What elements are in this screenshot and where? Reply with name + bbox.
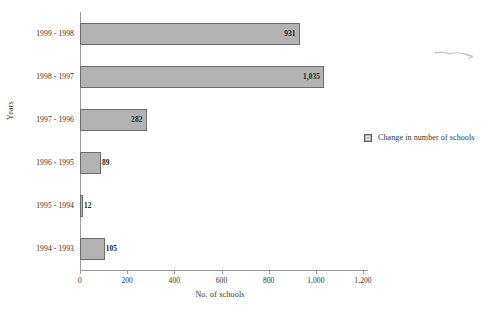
x-tick-mark — [80, 270, 81, 274]
y-axis-category-label: 1995 - 1994 — [0, 201, 74, 210]
x-tick-label: 1,200 — [354, 276, 371, 285]
y-axis-category-label: 1999 - 1998 — [0, 29, 74, 38]
bar-value-label: 282 — [131, 115, 142, 124]
y-axis-title: Years — [6, 101, 15, 120]
chart-legend: Change in number of schools — [364, 133, 474, 142]
bar-value-label: 89 — [102, 158, 110, 167]
x-tick-mark — [363, 270, 364, 274]
x-axis-line — [80, 270, 368, 271]
bar-value-label: 931 — [284, 29, 295, 38]
bar-value-label: 12 — [84, 201, 92, 210]
x-tick-mark — [127, 270, 128, 274]
bar-value-label: 1,035 — [303, 72, 320, 81]
chart-bar — [80, 152, 101, 174]
x-tick-label: 600 — [216, 276, 228, 285]
scan-artifact — [434, 47, 476, 61]
chart-bar — [80, 66, 324, 88]
y-axis-category-label: 1996 - 1995 — [0, 158, 74, 167]
x-tick-mark — [269, 270, 270, 274]
x-tick-label: 800 — [263, 276, 275, 285]
y-axis-category-label: 1998 - 1997 — [0, 72, 74, 81]
x-tick-label: 400 — [169, 276, 181, 285]
chart-bar — [80, 238, 105, 260]
chart-bar — [80, 195, 83, 217]
bar-chart: 02004006008001,0001,200 1999 - 199893119… — [0, 0, 503, 314]
x-tick-mark — [174, 270, 175, 274]
x-tick-label: 0 — [78, 276, 82, 285]
x-axis-title: No. of schools — [0, 290, 440, 299]
x-tick-mark — [222, 270, 223, 274]
x-tick-label: 200 — [121, 276, 133, 285]
y-axis-line — [80, 12, 81, 270]
x-tick-label: 1,000 — [307, 276, 324, 285]
legend-swatch-icon — [364, 134, 372, 142]
y-axis-category-label: 1994 - 1993 — [0, 244, 74, 253]
bar-value-label: 105 — [106, 244, 117, 253]
x-tick-mark — [316, 270, 317, 274]
legend-label: Change in number of schools — [378, 133, 474, 142]
chart-bar — [80, 23, 300, 45]
